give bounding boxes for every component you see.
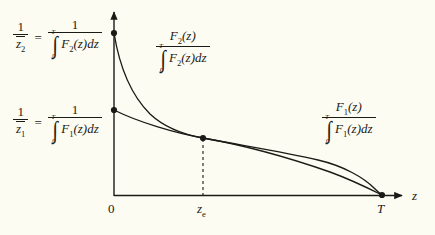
curve-label-f2-integrand: F2(z)dz <box>169 50 207 65</box>
f2-start-dot <box>111 30 117 36</box>
eq-f1-lhs-numerator: 1 <box>13 105 28 120</box>
integral-lower-limit: 0 <box>326 138 330 145</box>
x-tick-crossing: ze <box>197 201 206 219</box>
eq-f1-integral-row: T ∫ 0 F1(z)dz <box>51 119 99 141</box>
curve-label-f1-numerator: F1(z) <box>322 100 376 118</box>
eq-f1-equals: = <box>32 116 45 129</box>
eq-f1-rhs-denominator: T ∫ 0 F1(z)dz <box>48 118 102 141</box>
eq-f1-integrand: F1(z)dz <box>61 121 99 136</box>
integral-sign-eq-f2: T ∫ 0 <box>51 34 61 56</box>
curve-label-f1-integrand: F1(z)dz <box>335 121 373 136</box>
curve-label-f2-denominator: T ∫ 0 F2(z)dz <box>156 47 210 70</box>
integral-lower-limit: 0 <box>52 53 56 60</box>
eq-f2-integral-row: T ∫ 0 F2(z)dz <box>51 34 99 56</box>
f1-start-dot <box>111 107 117 113</box>
integral-sign-label-f1: T ∫ 0 <box>325 119 335 141</box>
curve-label-f2: F2(z) T ∫ 0 F2(z)dz <box>156 29 210 70</box>
eq-f2-integrand: F2(z)dz <box>61 36 99 51</box>
curve-label-f1: F1(z) T ∫ 0 F1(z)dz <box>322 100 376 141</box>
eq-f2-rhs-denominator: T ∫ 0 F2(z)dz <box>48 33 102 56</box>
curve-label-f1-fraction: F1(z) T ∫ 0 F1(z)dz <box>322 100 376 141</box>
curve-label-f2-integral-row: T ∫ 0 F2(z)dz <box>159 48 207 70</box>
eq-f2-lhs-denominator: z2 <box>13 35 28 54</box>
curve-label-f1-integral-row: T ∫ 0 F1(z)dz <box>325 119 373 141</box>
x-tick-end: T <box>377 201 384 217</box>
eq-f2-lhs-numerator: 1 <box>13 20 28 35</box>
eq-f2-rhs-numerator: 1 <box>48 18 102 33</box>
eq-f2-lhs: 1 z2 <box>13 20 28 54</box>
crossing-dot <box>200 135 206 141</box>
integral-sign-label-f2: T ∫ 0 <box>159 48 169 70</box>
x-tick-crossing-subscript: e <box>202 209 206 219</box>
equation-mean-z2: 1 z2 = 1 T ∫ 0 F2(z)dz <box>13 18 102 56</box>
z-bar-1: z1 <box>16 121 25 139</box>
eq-f2-equals: = <box>32 31 45 44</box>
eq-f1-lhs-denominator: z1 <box>13 120 28 139</box>
end-dot-T <box>379 192 385 198</box>
z-bar-2: z2 <box>16 36 25 54</box>
x-axis-label: z <box>412 188 417 204</box>
eq-f1-lhs: 1 z1 <box>13 105 28 139</box>
integral-lower-limit: 0 <box>52 138 56 145</box>
eq-f2-rhs: 1 T ∫ 0 F2(z)dz <box>48 18 102 56</box>
curve-label-f2-numerator: F2(z) <box>156 29 210 47</box>
equation-mean-z1: 1 z1 = 1 T ∫ 0 F1(z)dz <box>13 103 102 141</box>
x-tick-origin: 0 <box>108 201 115 217</box>
integral-lower-limit: 0 <box>160 67 164 74</box>
curve-label-f1-denominator: T ∫ 0 F1(z)dz <box>322 118 376 141</box>
integral-sign-eq-f1: T ∫ 0 <box>51 119 61 141</box>
eq-f1-rhs-numerator: 1 <box>48 103 102 118</box>
eq-f1-rhs: 1 T ∫ 0 F1(z)dz <box>48 103 102 141</box>
curve-label-f2-fraction: F2(z) T ∫ 0 F2(z)dz <box>156 29 210 70</box>
figure-container: 1 z2 = 1 T ∫ 0 F2(z)dz 1 z1 = 1 <box>0 0 435 235</box>
